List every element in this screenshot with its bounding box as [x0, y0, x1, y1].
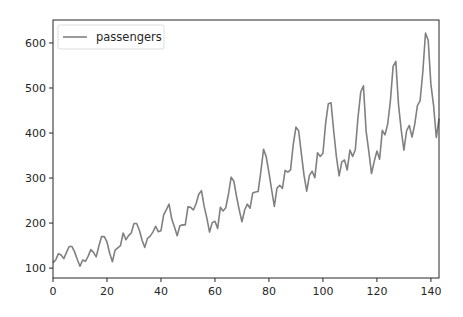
y-axis-ticks: 100200300400500600: [25, 37, 53, 275]
x-tick-label: 20: [100, 285, 114, 298]
x-tick-label: 100: [312, 285, 333, 298]
x-tick-label: 60: [208, 285, 222, 298]
y-tick-label: 200: [25, 217, 46, 230]
legend-label-passengers: passengers: [96, 30, 162, 44]
x-tick-label: 140: [420, 285, 441, 298]
x-tick-label: 40: [154, 285, 168, 298]
x-tick-label: 120: [366, 285, 387, 298]
x-tick-label: 0: [50, 285, 57, 298]
x-axis-ticks: 020406080100120140: [50, 278, 442, 298]
x-tick-label: 80: [262, 285, 276, 298]
y-tick-label: 500: [25, 82, 46, 95]
y-tick-label: 300: [25, 172, 46, 185]
y-tick-label: 600: [25, 37, 46, 50]
legend: passengers: [58, 25, 164, 49]
line-chart: 020406080100120140 100200300400500600 pa…: [0, 0, 463, 317]
y-tick-label: 400: [25, 127, 46, 140]
y-tick-label: 100: [25, 262, 46, 275]
